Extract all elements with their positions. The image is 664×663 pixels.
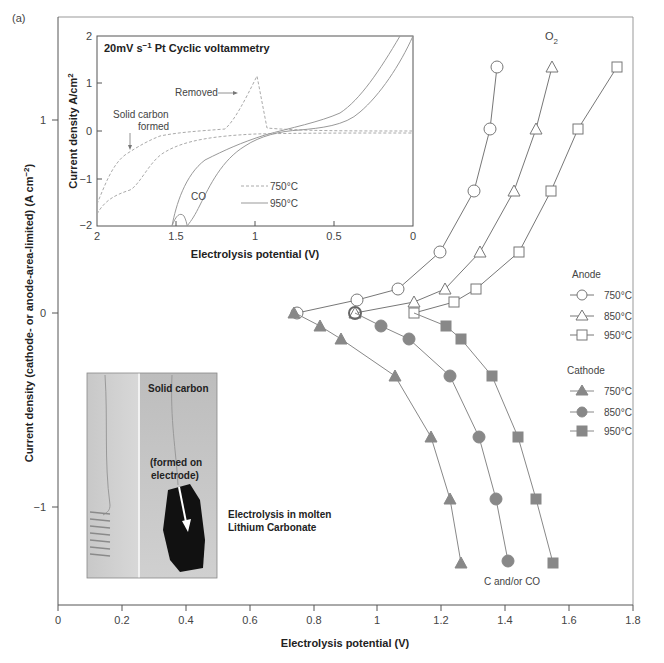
inset-x-tick: 1 (252, 230, 258, 242)
o2-label: O2 (545, 30, 559, 46)
x-tick-label: 0.8 (306, 614, 321, 626)
photo-solid-carbon-label: Solid carbon (148, 383, 209, 394)
x-tick-label: 0.2 (114, 614, 129, 626)
c-co-label: C and/or CO (484, 576, 540, 587)
y-tick-label: 1 (40, 114, 46, 126)
x-tick-label: 1.2 (433, 614, 448, 626)
legend-anode-850: 850°C (604, 311, 632, 322)
inset-formed-label: formed (138, 121, 169, 132)
inset-y-tick: −1 (79, 173, 92, 185)
inset-title: 20mV s−1 Pt Cyclic voltammetry (104, 41, 271, 54)
x-tick-label: 0.6 (242, 614, 257, 626)
legend-anode-title: Anode (572, 269, 601, 280)
main-y-axis: 1 0 −1 Current density (cathode- or anod… (22, 114, 58, 513)
inset-y-tick: 2 (86, 30, 92, 42)
legend-cathode-850: 850°C (604, 407, 632, 418)
legend-anode-750: 750°C (604, 290, 632, 301)
legend-open-square-icon (577, 330, 587, 340)
panel-label: (a) (12, 12, 25, 24)
electrolysis-label-1: Electrolysis in molten (228, 509, 331, 520)
legend-filled-square-icon (577, 426, 587, 436)
inset-legend-750: 750°C (270, 181, 298, 192)
y-tick-label: −1 (33, 501, 46, 513)
electrode-photo: Solid carbon (formed on electrode) (87, 373, 217, 578)
inset-y-axis-title: Current density A/cm2 (66, 73, 79, 189)
legend-cathode-950: 950°C (604, 426, 632, 437)
inset-cv-plot: 2 1 0 −1 −2 Current density A/cm2 2 1.5 … (66, 30, 416, 260)
inset-removed-label: Removed (175, 87, 218, 98)
x-tick-label: 0.4 (178, 614, 193, 626)
legend: Anode 750°C 850°C 950°C Cathode 750°C 85… (567, 269, 632, 437)
x-tick-label: 1.8 (625, 614, 640, 626)
x-tick-label: 1.6 (561, 614, 576, 626)
inset-x-axis-title: Electrolysis potential (V) (191, 248, 320, 260)
main-y-axis-title: Current density (cathode- or anode-area-… (22, 163, 35, 462)
y-tick-label: 0 (40, 307, 46, 319)
legend-cathode-750: 750°C (604, 386, 632, 397)
inset-x-tick: 0.5 (326, 230, 341, 242)
figure: (a) 1 0 −1 Current density (cathode- or … (0, 0, 664, 663)
photo-formed-label-1: (formed on (150, 457, 202, 468)
legend-cathode-title: Cathode (567, 365, 605, 376)
inset-x-tick: 0 (410, 230, 416, 242)
x-tick-label: 1 (374, 614, 380, 626)
inset-legend-950: 950°C (270, 198, 298, 209)
inset-y-tick: 1 (86, 77, 92, 89)
inset-x-tick: 2 (94, 230, 100, 242)
legend-anode-950: 950°C (604, 330, 632, 341)
legend-filled-triangle-icon (576, 385, 588, 395)
legend-filled-circle-icon (577, 407, 587, 417)
electrolysis-label-2: Lithium Carbonate (228, 522, 317, 533)
inset-y-tick: −2 (79, 219, 92, 231)
inset-solid-carbon-label: Solid carbon (113, 109, 169, 120)
x-tick-label: 0 (55, 614, 61, 626)
main-x-axis-title: Electrolysis potential (V) (281, 637, 410, 649)
inset-co-label: CO (191, 191, 206, 202)
legend-open-circle-icon (577, 290, 587, 300)
photo-formed-label-2: electrode) (151, 470, 199, 481)
x-tick-label: 1.4 (497, 614, 512, 626)
legend-open-triangle-icon (576, 310, 588, 320)
main-x-axis: 0 0.2 0.4 0.6 0.8 1 1.2 1.4 1.6 1.8 Elec… (55, 605, 641, 649)
inset-x-tick: 1.5 (168, 230, 183, 242)
inset-y-tick: 0 (86, 125, 92, 137)
